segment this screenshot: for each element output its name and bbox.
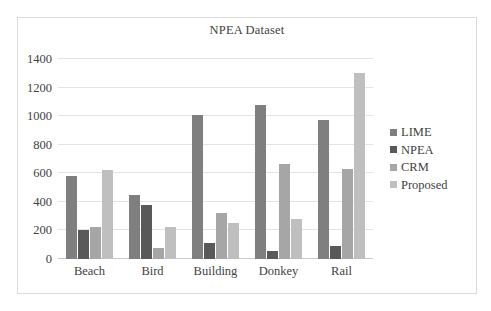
y-axis-tick-label: 1000 (27, 109, 52, 124)
legend-swatch-icon (390, 181, 397, 188)
bar-npea-donkey (267, 251, 278, 259)
legend-swatch-icon (390, 164, 397, 171)
bars (318, 59, 366, 259)
legend-label: LIME (401, 126, 432, 139)
bar-group: Donkey (247, 59, 310, 259)
bar-proposed-bird (165, 227, 176, 259)
y-axis-tick-label: 1200 (27, 80, 52, 95)
legend-swatch-icon (390, 146, 397, 153)
legend-label: CRM (401, 161, 429, 174)
bars (129, 59, 177, 259)
bars (255, 59, 303, 259)
legend-label: Proposed (401, 179, 448, 192)
legend: LIMENPEACRMProposed (390, 126, 448, 191)
bar-crm-bird (153, 248, 164, 259)
legend-label: NPEA (401, 144, 434, 157)
x-axis-label: Donkey (247, 264, 310, 279)
legend-item-crm[interactable]: CRM (390, 161, 448, 174)
x-axis-label: Building (184, 264, 247, 279)
bar-lime-rail (318, 120, 329, 259)
bar-crm-rail (342, 169, 353, 259)
bar-lime-building (192, 115, 203, 259)
plot-area: 0200400600800100012001400 BeachBirdBuild… (58, 59, 373, 259)
bars (192, 59, 240, 259)
bar-crm-donkey (279, 164, 290, 259)
bar-proposed-rail (354, 73, 365, 259)
y-axis-tick-label: 600 (33, 166, 52, 181)
bar-proposed-beach (102, 170, 113, 259)
legend-swatch-icon (390, 129, 397, 136)
bar-proposed-donkey (291, 219, 302, 259)
y-axis-tick-label: 0 (46, 252, 52, 267)
legend-item-npea[interactable]: NPEA (390, 144, 448, 157)
bar-npea-building (204, 243, 215, 259)
bar-npea-beach (78, 230, 89, 259)
bar-groups: BeachBirdBuildingDonkeyRail (58, 59, 373, 259)
x-axis-label: Bird (121, 264, 184, 279)
bar-crm-beach (90, 227, 101, 259)
y-axis-tick-label: 200 (33, 223, 52, 238)
bar-group: Bird (121, 59, 184, 259)
bar-npea-bird (141, 205, 152, 259)
bar-group: Building (184, 59, 247, 259)
bar-proposed-building (228, 223, 239, 259)
bar-group: Beach (58, 59, 121, 259)
bar-npea-rail (330, 246, 341, 259)
bar-lime-donkey (255, 105, 266, 259)
x-axis-label: Rail (310, 264, 373, 279)
bar-lime-beach (66, 176, 77, 259)
x-axis-label: Beach (58, 264, 121, 279)
bars (66, 59, 114, 259)
y-axis-tick-label: 800 (33, 137, 52, 152)
bar-crm-building (216, 213, 227, 259)
chart-title: NPEA Dataset (18, 23, 476, 38)
legend-item-lime[interactable]: LIME (390, 126, 448, 139)
bar-group: Rail (310, 59, 373, 259)
y-axis-tick-label: 1400 (27, 52, 52, 67)
legend-item-proposed[interactable]: Proposed (390, 179, 448, 192)
chart-container: NPEA Dataset 0200400600800100012001400 B… (17, 17, 477, 294)
bar-lime-bird (129, 195, 140, 259)
y-axis-tick-label: 400 (33, 194, 52, 209)
